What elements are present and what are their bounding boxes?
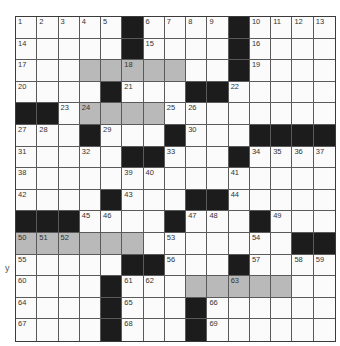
square[interactable]: 13 (314, 17, 335, 39)
square[interactable]: 28 (37, 125, 58, 147)
square[interactable] (207, 39, 228, 61)
square[interactable] (314, 319, 335, 341)
square[interactable] (207, 125, 228, 147)
square[interactable]: 64 (16, 298, 37, 320)
square[interactable] (37, 319, 58, 341)
square[interactable] (250, 190, 271, 212)
square[interactable]: 14 (16, 39, 37, 61)
square[interactable]: 27 (16, 125, 37, 147)
square[interactable] (80, 319, 101, 341)
square[interactable]: 5 (101, 17, 122, 39)
square[interactable] (207, 168, 228, 190)
square[interactable] (101, 255, 122, 277)
square[interactable]: 39 (122, 168, 143, 190)
square[interactable] (271, 82, 292, 104)
square[interactable]: 33 (165, 147, 186, 169)
square[interactable] (292, 319, 313, 341)
square[interactable] (186, 168, 207, 190)
square[interactable] (101, 147, 122, 169)
square[interactable]: 48 (207, 211, 228, 233)
square[interactable] (59, 60, 80, 82)
square[interactable] (165, 39, 186, 61)
square[interactable]: 58 (292, 255, 313, 277)
square[interactable] (292, 60, 313, 82)
square[interactable] (80, 298, 101, 320)
shaded-square[interactable] (165, 60, 186, 82)
square[interactable]: 53 (165, 233, 186, 255)
square[interactable] (292, 82, 313, 104)
square[interactable]: 57 (250, 255, 271, 277)
square[interactable]: 62 (144, 276, 165, 298)
square[interactable] (292, 298, 313, 320)
square[interactable]: 21 (122, 82, 143, 104)
square[interactable] (229, 125, 250, 147)
square[interactable] (292, 276, 313, 298)
square[interactable] (37, 276, 58, 298)
shaded-square[interactable] (101, 60, 122, 82)
square[interactable] (122, 211, 143, 233)
square[interactable]: 56 (165, 255, 186, 277)
square[interactable] (37, 60, 58, 82)
square[interactable] (314, 103, 335, 125)
square[interactable]: 68 (122, 319, 143, 341)
square[interactable] (144, 190, 165, 212)
square[interactable] (37, 39, 58, 61)
square[interactable] (250, 168, 271, 190)
square[interactable] (144, 82, 165, 104)
shaded-square[interactable]: 24 (80, 103, 101, 125)
square[interactable] (271, 190, 292, 212)
square[interactable]: 32 (80, 147, 101, 169)
square[interactable] (314, 60, 335, 82)
square[interactable]: 38 (16, 168, 37, 190)
square[interactable] (207, 255, 228, 277)
square[interactable] (59, 298, 80, 320)
square[interactable] (186, 147, 207, 169)
square[interactable]: 20 (16, 82, 37, 104)
square[interactable]: 60 (16, 276, 37, 298)
square[interactable]: 2 (37, 17, 58, 39)
square[interactable] (59, 319, 80, 341)
square[interactable] (59, 82, 80, 104)
shaded-square[interactable] (207, 276, 228, 298)
square[interactable]: 54 (250, 233, 271, 255)
square[interactable] (165, 190, 186, 212)
square[interactable] (37, 255, 58, 277)
shaded-square[interactable] (80, 60, 101, 82)
square[interactable] (292, 168, 313, 190)
square[interactable] (271, 60, 292, 82)
square[interactable]: 61 (122, 276, 143, 298)
square[interactable] (37, 147, 58, 169)
square[interactable]: 65 (122, 298, 143, 320)
shaded-square[interactable] (144, 60, 165, 82)
square[interactable] (59, 190, 80, 212)
square[interactable] (80, 82, 101, 104)
square[interactable] (207, 147, 228, 169)
square[interactable] (207, 233, 228, 255)
square[interactable] (165, 319, 186, 341)
square[interactable] (207, 60, 228, 82)
square[interactable]: 46 (101, 211, 122, 233)
square[interactable] (165, 298, 186, 320)
square[interactable]: 35 (271, 147, 292, 169)
square[interactable]: 49 (271, 211, 292, 233)
square[interactable] (271, 319, 292, 341)
shaded-square[interactable]: 52 (59, 233, 80, 255)
shaded-square[interactable] (122, 233, 143, 255)
square[interactable] (250, 298, 271, 320)
square[interactable] (37, 190, 58, 212)
shaded-square[interactable] (101, 103, 122, 125)
square[interactable]: 16 (250, 39, 271, 61)
square[interactable] (144, 125, 165, 147)
square[interactable] (314, 82, 335, 104)
square[interactable] (314, 298, 335, 320)
square[interactable] (271, 168, 292, 190)
square[interactable]: 69 (207, 319, 228, 341)
square[interactable] (271, 255, 292, 277)
square[interactable] (292, 39, 313, 61)
square[interactable] (37, 298, 58, 320)
square[interactable] (80, 255, 101, 277)
square[interactable] (250, 319, 271, 341)
square[interactable]: 4 (80, 17, 101, 39)
square[interactable]: 26 (186, 103, 207, 125)
square[interactable] (271, 39, 292, 61)
